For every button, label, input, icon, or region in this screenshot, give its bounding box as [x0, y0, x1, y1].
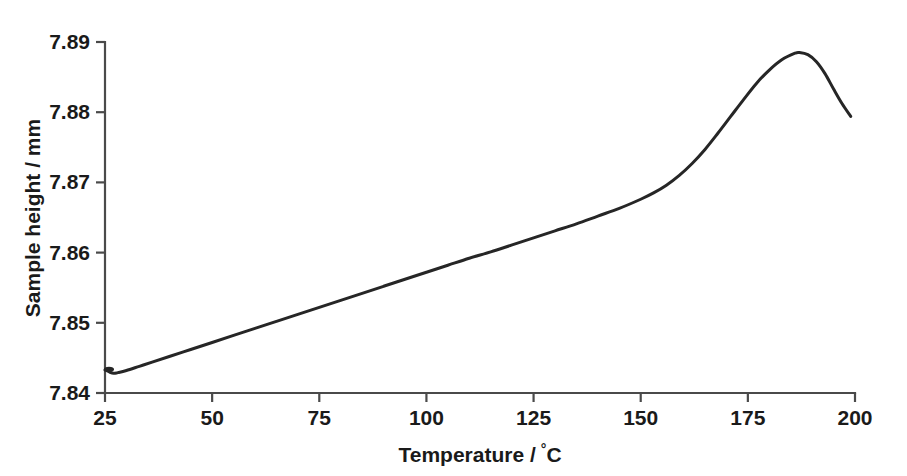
x-tick-label: 50 [200, 406, 223, 429]
x-tick-label: 200 [837, 406, 872, 429]
y-tick-label: 7.87 [49, 170, 90, 193]
series-start-marker [104, 367, 114, 372]
x-tick-label: 100 [409, 406, 444, 429]
x-tick-label: 175 [730, 406, 765, 429]
plot-background [0, 0, 907, 476]
y-tick-label: 7.85 [49, 311, 90, 334]
y-axis-title: Sample height / mm [21, 119, 44, 317]
x-tick-label: 150 [623, 406, 658, 429]
x-tick-label: 25 [93, 406, 117, 429]
y-tick-label: 7.88 [49, 100, 90, 123]
chart-plot: 7.847.857.867.877.887.89 255075100125150… [0, 0, 907, 476]
y-tick-label: 7.86 [49, 241, 90, 264]
chart-figure: 7.847.857.867.877.887.89 255075100125150… [0, 0, 907, 476]
x-tick-label: 125 [516, 406, 551, 429]
x-axis-title-unit: C [546, 443, 561, 466]
y-tick-label: 7.84 [49, 381, 90, 404]
y-tick-label: 7.89 [49, 30, 90, 53]
x-axis-title-main: Temperature / [398, 443, 535, 466]
x-tick-label: 75 [308, 406, 332, 429]
